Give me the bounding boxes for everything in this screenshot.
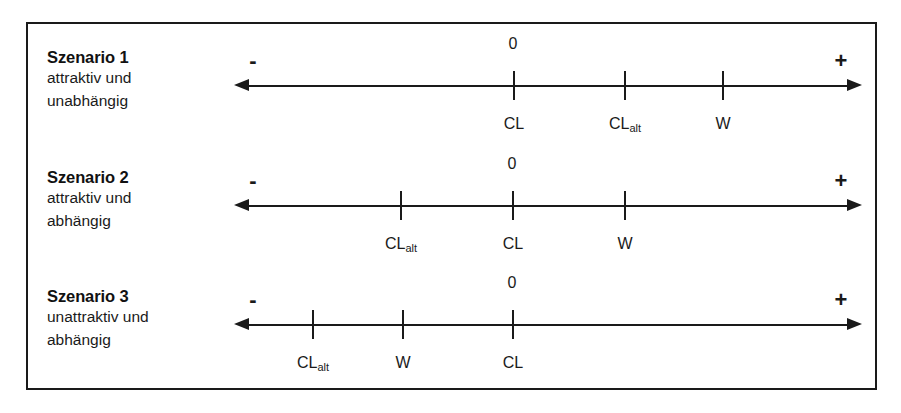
tick-label-3-w: W bbox=[368, 355, 438, 371]
tick-mark-1-w bbox=[722, 71, 724, 100]
tick-label-text: W bbox=[395, 354, 410, 371]
scenario-diagram: Szenario 1 attraktiv und unabhängig - + … bbox=[0, 0, 901, 413]
scenario-1-axis: - + 0 CL CLalt W bbox=[0, 0, 901, 120]
positive-pole-sign-2: + bbox=[830, 170, 852, 192]
scenario-row-2: Szenario 2 attraktiv und abhängig - + 0 … bbox=[0, 120, 901, 240]
negative-pole-sign-3: - bbox=[242, 289, 264, 311]
positive-pole-sign-3: + bbox=[830, 289, 852, 311]
negative-pole-sign-2: - bbox=[242, 170, 264, 192]
axis-arrow-left-2 bbox=[234, 199, 249, 211]
tick-mark-3-cl bbox=[512, 310, 514, 339]
axis-line-1 bbox=[246, 85, 850, 87]
positive-pole-sign-1: + bbox=[830, 50, 852, 72]
axis-arrow-right-3 bbox=[847, 318, 862, 330]
axis-arrow-left-1 bbox=[234, 79, 249, 91]
scenario-2-axis: - + 0 CLalt CL W bbox=[0, 120, 901, 240]
axis-line-3 bbox=[246, 324, 850, 326]
origin-label-3: 0 bbox=[500, 275, 524, 291]
scenario-row-3: Szenario 3 unattraktiv und abhängig - + … bbox=[0, 239, 901, 359]
tick-mark-3-w bbox=[402, 310, 404, 339]
axis-arrow-right-1 bbox=[847, 79, 862, 91]
tick-label-text: CL bbox=[297, 354, 317, 371]
tick-label-3-cl: CL bbox=[478, 355, 548, 371]
scenario-row-1: Szenario 1 attraktiv und unabhängig - + … bbox=[0, 0, 901, 120]
tick-label-3-clalt: CLalt bbox=[278, 355, 348, 371]
axis-arrow-right-2 bbox=[847, 199, 862, 211]
tick-mark-2-cl bbox=[512, 191, 514, 220]
scenario-3-axis: - + 0 CLalt W CL bbox=[0, 239, 901, 359]
tick-mark-1-clalt bbox=[624, 71, 626, 100]
tick-label-sub: alt bbox=[317, 361, 329, 373]
tick-mark-2-clalt bbox=[400, 191, 402, 220]
origin-label-2: 0 bbox=[500, 156, 524, 172]
tick-mark-2-w bbox=[624, 191, 626, 220]
axis-line-2 bbox=[246, 205, 850, 207]
origin-label-1: 0 bbox=[501, 36, 525, 52]
tick-label-text: CL bbox=[503, 354, 523, 371]
negative-pole-sign-1: - bbox=[242, 50, 264, 72]
axis-arrow-left-3 bbox=[234, 318, 249, 330]
tick-mark-1-cl bbox=[513, 71, 515, 100]
tick-mark-3-clalt bbox=[312, 310, 314, 339]
